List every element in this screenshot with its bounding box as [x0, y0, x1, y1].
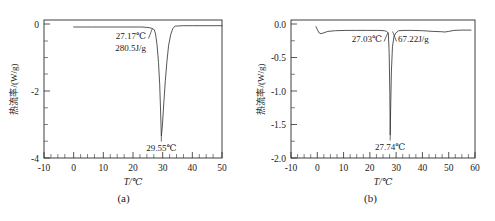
y-axis-ticks — [44, 24, 50, 158]
x-tick-label: -10 — [38, 163, 51, 173]
panel-b: 0.0 -0.5 -1.0 -1.5 -2.0 -10 0 10 20 30 4… — [247, 0, 494, 221]
panel-a: 0 -2 -4 -10 0 10 20 30 40 50 T/℃ 热流率/(W/… — [0, 0, 247, 221]
x-tick-label: 30 — [391, 163, 401, 173]
x-tick-label: 20 — [128, 163, 138, 173]
y-tick-label: -2.0 — [271, 154, 286, 164]
dsc-curve — [316, 27, 471, 136]
y-tick-label: -0.5 — [271, 53, 286, 63]
x-axis-ticks — [44, 152, 222, 158]
x-tick-label: 0 — [71, 163, 76, 173]
y-tick-label: 0.0 — [274, 20, 286, 30]
x-tick-label: 50 — [217, 163, 227, 173]
onset-temperature-label: 27.17℃ — [116, 31, 146, 41]
onset-leader-line — [149, 29, 153, 39]
x-tick-label: 50 — [444, 163, 454, 173]
x-tick-label: -10 — [285, 163, 298, 173]
peak-temperature-label: 27.74℃ — [375, 142, 405, 152]
x-tick-label: 10 — [99, 163, 109, 173]
dsc-figure: 0 -2 -4 -10 0 10 20 30 40 50 T/℃ 热流率/(W/… — [0, 0, 495, 221]
y-axis-ticks — [291, 24, 297, 158]
x-axis-title: T/℃ — [374, 177, 393, 187]
x-axis-title: T/℃ — [124, 177, 143, 187]
x-tick-label: 60 — [470, 163, 480, 173]
x-tick-label: 30 — [158, 163, 168, 173]
x-tick-label: 10 — [339, 163, 349, 173]
x-tick-label: 40 — [188, 163, 198, 173]
plot-frame — [44, 20, 222, 158]
dsc-curve — [74, 26, 222, 136]
peak-temperature-label: 29.55℃ — [146, 143, 176, 153]
panel-a-plot: 0 -2 -4 -10 0 10 20 30 40 50 T/℃ 热流率/(W/… — [0, 0, 247, 190]
x-tick-label: 40 — [418, 163, 428, 173]
y-tick-label: -1.5 — [271, 120, 286, 130]
onset-temperature-label: 27.03℃ — [352, 34, 382, 44]
y-tick-label: -2 — [31, 87, 39, 97]
x-tick-label: 20 — [365, 163, 375, 173]
x-axis-ticks — [291, 152, 475, 158]
onset-leader-line — [384, 33, 388, 42]
plot-frame — [291, 20, 475, 158]
panel-b-plot: 0.0 -0.5 -1.0 -1.5 -2.0 -10 0 10 20 30 4… — [247, 0, 495, 190]
panel-caption-b: (b) — [247, 192, 494, 204]
y-tick-label: -1.0 — [271, 87, 286, 97]
y-tick-label: 0 — [34, 20, 39, 30]
y-axis-title: 热流率/(W/g) — [8, 64, 19, 115]
panel-caption-a: (a) — [0, 192, 247, 204]
y-axis-title: 热流率/(W/g) — [255, 64, 266, 115]
x-tick-label: 0 — [315, 163, 320, 173]
enthalpy-label: 67.22J/g — [398, 34, 429, 44]
y-tick-label: -4 — [31, 154, 39, 164]
enthalpy-label: 280.5J/g — [115, 43, 146, 53]
